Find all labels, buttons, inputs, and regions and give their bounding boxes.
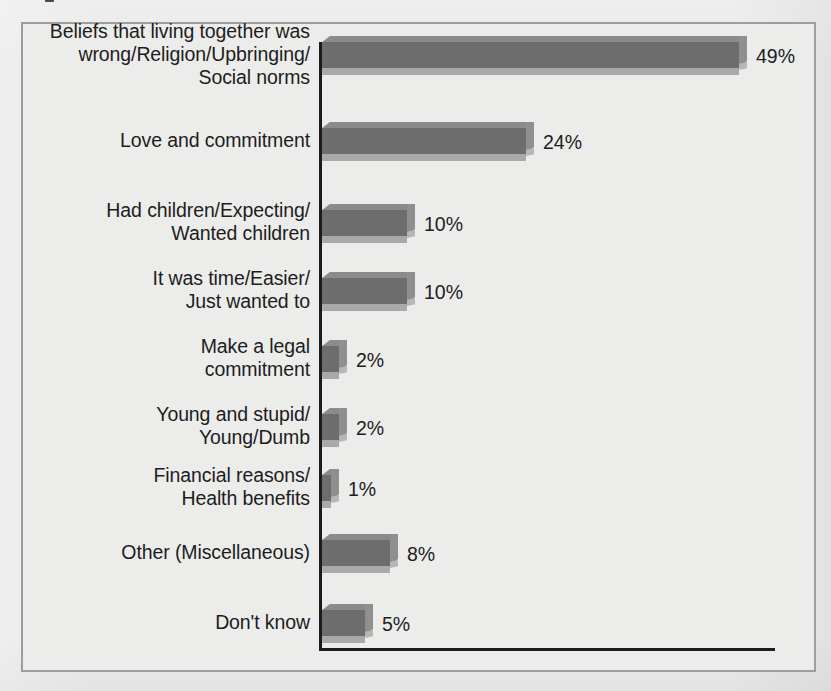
category-label: Don't know [25,611,310,634]
bar-front-face [322,475,331,501]
bar-row: Financial reasons/Health benefits1% [23,475,814,537]
bar-bottom-bevel [322,68,739,75]
bar-bottom-bevel [322,636,365,643]
bar-value-label: 1% [348,476,376,502]
bar-front-face [322,278,407,304]
bar-front-face [322,42,739,68]
bar-top-face [322,36,747,42]
category-label-line: wrong/Religion/Upbringing/ [25,43,310,66]
bar-bottom-bevel [322,440,339,447]
plot-area: Beliefs that living together waswrong/Re… [23,24,814,670]
category-label-line: Other (Miscellaneous) [25,541,310,564]
category-label: Other (Miscellaneous) [25,541,310,564]
category-label-line: Young/Dumb [25,426,310,449]
category-label-line: Financial reasons/ [25,464,310,487]
category-label-line: Beliefs that living together was [25,20,310,43]
category-label-line: Social norms [25,66,310,89]
bar-bottom-bevel [322,501,331,508]
bar-value-label: 5% [382,611,410,637]
category-label: Love and commitment [25,129,310,152]
bar-row: Don't know5% [23,610,814,672]
bar-row: Other (Miscellaneous)8% [23,540,814,602]
bar-front-face [322,128,526,154]
bar-front-face [322,346,339,372]
bar-bottom-bevel [322,236,407,243]
category-label: Beliefs that living together waswrong/Re… [25,20,310,89]
cropped-title-remnant [45,0,54,2]
category-label-line: Love and commitment [25,129,310,152]
bar-value-label: 2% [356,415,384,441]
bar-bottom-bevel [322,372,339,379]
category-label: Financial reasons/Health benefits [25,464,310,510]
category-label-line: Had children/Expecting/ [25,199,310,222]
bar-top-face [322,204,415,210]
bar-front-face [322,210,407,236]
bar-bottom-bevel [322,566,390,573]
category-label-line: commitment [25,358,310,381]
bar-value-label: 49% [756,43,795,69]
bar-value-label: 24% [543,129,582,155]
bar-value-label: 10% [424,211,463,237]
category-label: Make a legalcommitment [25,335,310,381]
category-label: Young and stupid/Young/Dumb [25,403,310,449]
bar-top-face [322,534,398,540]
bar-top-face [322,122,534,128]
bar-value-label: 2% [356,347,384,373]
category-label: Had children/Expecting/Wanted children [25,199,310,245]
bar-front-face [322,610,365,636]
category-label-line: Don't know [25,611,310,634]
bar-bottom-bevel [322,154,526,161]
bar-row: Beliefs that living together waswrong/Re… [23,42,814,104]
bar-row: Love and commitment24% [23,128,814,190]
category-label: It was time/Easier/Just wanted to [25,267,310,313]
category-label-line: Wanted children [25,222,310,245]
bar-front-face [322,540,390,566]
category-label-line: It was time/Easier/ [25,267,310,290]
category-label-line: Make a legal [25,335,310,358]
bar-value-label: 8% [407,541,435,567]
category-label-line: Health benefits [25,487,310,510]
bar-row: Had children/Expecting/Wanted children10… [23,210,814,272]
bar-row: It was time/Easier/Just wanted to10% [23,278,814,340]
bar-front-face [322,414,339,440]
bar-bottom-bevel [322,304,407,311]
bar-top-face [322,272,415,278]
category-label-line: Just wanted to [25,290,310,313]
bar-value-label: 10% [424,279,463,305]
chart-frame: Beliefs that living together waswrong/Re… [21,22,816,672]
category-label-line: Young and stupid/ [25,403,310,426]
bar-row: Make a legalcommitment2% [23,346,814,408]
